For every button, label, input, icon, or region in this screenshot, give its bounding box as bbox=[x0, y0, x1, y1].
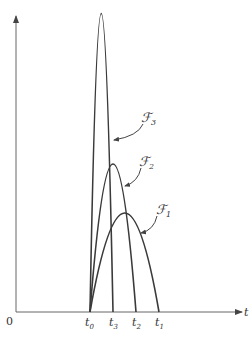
pointer-f1 bbox=[141, 216, 157, 233]
curve-f1 bbox=[90, 213, 159, 312]
diagram-canvas: ℱ3 ℱ2 ℱ1 0 t t0 t3 t2 t1 bbox=[0, 0, 252, 338]
label-f3: ℱ3 bbox=[141, 110, 156, 127]
label-f2: ℱ2 bbox=[139, 154, 154, 171]
tick-t0: t0 bbox=[85, 316, 94, 331]
tick-t1: t1 bbox=[155, 316, 164, 331]
tick-t3: t3 bbox=[109, 316, 118, 331]
pointer-f3 bbox=[114, 124, 143, 140]
tick-t2: t2 bbox=[132, 316, 141, 331]
pointer-f2 bbox=[125, 168, 141, 186]
x-axis-label: t bbox=[244, 306, 249, 319]
origin-label: 0 bbox=[6, 315, 13, 328]
label-f1: ℱ1 bbox=[156, 202, 171, 219]
